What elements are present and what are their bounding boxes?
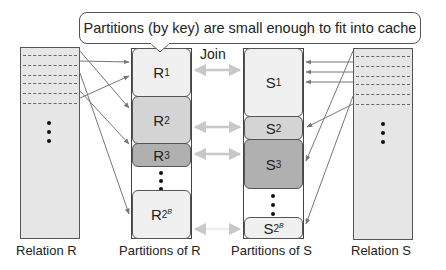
partitions-s-label: Partitions of S [231,243,312,258]
partitions-r-label: Partitions of R [119,243,201,258]
partition-arrows-s [306,51,353,224]
join-arrows [195,70,240,229]
relation-r-label: Relation R [16,243,77,258]
relation-s-label: Relation S [351,243,411,258]
partition-arrows-r [80,51,129,214]
join-label: Join [200,46,226,62]
arrows-layer [0,0,446,270]
